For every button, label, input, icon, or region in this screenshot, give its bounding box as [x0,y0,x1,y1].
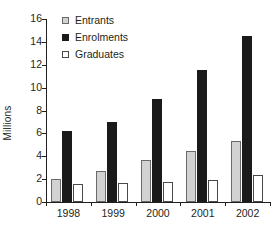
x-tick-mark [46,202,47,206]
bar-entrants-1999 [96,171,106,202]
bar-enrolments-2001 [197,70,207,202]
bar-graduates-1999 [118,183,128,202]
x-tick-mark [136,202,137,206]
x-tick-label-2002: 2002 [226,207,270,219]
y-tick-label: 4 [36,149,42,162]
x-tick-mark [225,202,226,206]
bar-enrolments-2000 [152,99,162,202]
x-tick-mark [180,202,181,206]
x-tick-label-2000: 2000 [136,207,180,219]
bars-layer [46,19,270,202]
bar-enrolments-2002 [242,36,252,202]
x-tick-mark [91,202,92,206]
x-tick-label-1999: 1999 [91,207,135,219]
plot-area: 0246810121416 19981999200020012002 [46,19,270,202]
bar-graduates-2001 [208,180,218,202]
bar-graduates-2000 [163,182,173,202]
y-tick-label: 6 [36,126,42,139]
x-axis-line [46,202,270,203]
bar-enrolments-1999 [107,122,117,202]
bar-graduates-2002 [253,175,263,202]
bar-entrants-1998 [51,179,61,202]
y-tick-label: 14 [30,35,42,48]
x-tick-label-1998: 1998 [46,207,90,219]
bar-entrants-2000 [141,160,151,202]
y-tick-label: 16 [30,12,42,25]
x-tick-mark [270,202,271,206]
y-tick-label: 8 [36,104,42,117]
x-tick-label-2001: 2001 [181,207,225,219]
bar-chart: Millions Entrants Enrolments Graduates 0… [0,0,277,240]
bar-enrolments-1998 [62,131,72,202]
y-tick-label: 0 [36,195,42,208]
y-tick-label: 10 [30,81,42,94]
y-tick-label: 12 [30,58,42,71]
y-tick-label: 2 [36,172,42,185]
bar-entrants-2001 [186,151,196,202]
bar-graduates-1998 [73,184,83,202]
y-axis-label: Millions [2,88,13,158]
bar-entrants-2002 [231,141,241,202]
